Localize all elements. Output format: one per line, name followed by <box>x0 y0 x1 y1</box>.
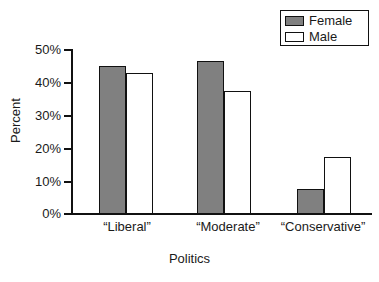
x-category-label-conservative: “Conservative” <box>268 220 378 234</box>
legend-swatch-male-icon <box>285 32 304 42</box>
legend-swatch-female-icon <box>285 16 304 26</box>
bar-moderate-female <box>197 61 224 214</box>
bar-conservative-male <box>324 157 351 214</box>
y-axis-title: Percent <box>9 98 22 143</box>
legend-label-female: Female <box>309 14 352 27</box>
y-tick-label-40: 40% <box>35 76 61 89</box>
bar-liberal-male <box>126 73 153 214</box>
x-axis-title: Politics <box>0 252 379 266</box>
plot-area <box>72 50 372 214</box>
bar-liberal-female <box>99 66 126 214</box>
bar-moderate-male <box>224 91 251 214</box>
bar-conservative-female <box>297 189 324 214</box>
legend-label-male: Male <box>309 30 337 43</box>
y-tick-label-20: 20% <box>35 142 61 155</box>
legend-item-male: Male <box>285 29 365 44</box>
y-tick-label-50: 50% <box>35 43 61 56</box>
bar-chart: Female Male 50% 40% 30% 20% 10% 0% Perce… <box>0 0 379 282</box>
x-category-label-liberal: “Liberal” <box>72 220 182 234</box>
y-tick-label-10: 10% <box>35 175 61 188</box>
legend-item-female: Female <box>285 13 365 28</box>
y-tick-label-0: 0% <box>42 207 61 220</box>
y-tick-label-30: 30% <box>35 109 61 122</box>
chart-legend: Female Male <box>280 10 369 46</box>
